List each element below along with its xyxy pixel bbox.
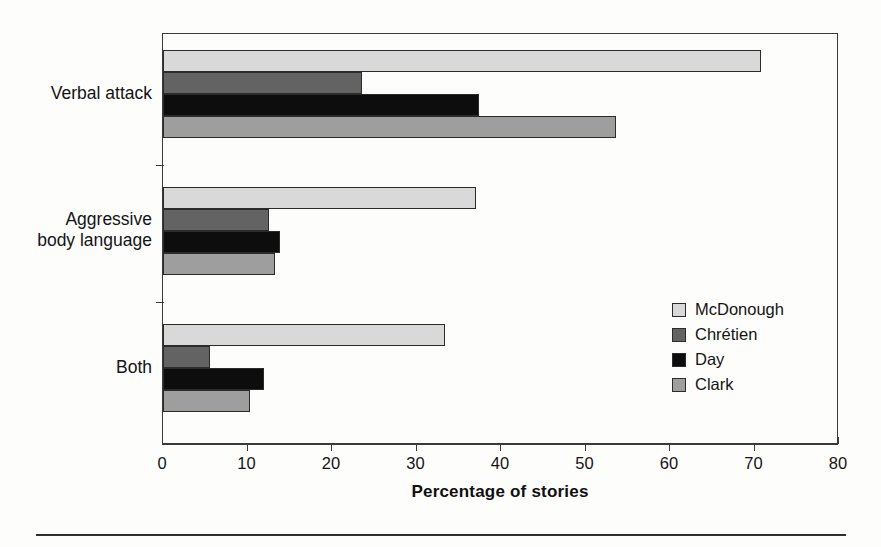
legend-swatch-icon — [672, 328, 686, 342]
legend: McDonoughChrétienDayClark — [672, 297, 832, 397]
bar — [163, 116, 616, 138]
x-axis-title: Percentage of stories — [162, 482, 838, 502]
bar — [163, 390, 250, 412]
x-axis-tick — [331, 444, 332, 451]
x-axis-tick — [416, 444, 417, 451]
x-axis-tick-label: 30 — [406, 454, 424, 473]
x-axis-tick — [162, 437, 163, 444]
bottom-divider-rule — [36, 534, 846, 536]
legend-item: McDonough — [672, 297, 832, 322]
legend-item-label: McDonough — [695, 300, 784, 319]
legend-swatch-icon — [672, 378, 686, 392]
x-axis-tick — [247, 444, 248, 451]
legend-item-label: Clark — [695, 375, 734, 394]
legend-item-label: Day — [695, 350, 724, 369]
x-axis-tick — [585, 444, 586, 451]
bar-chart-figure: Verbal attackAggressive body languageBot… — [0, 0, 881, 547]
x-axis-tick — [669, 444, 670, 451]
y-axis-tick — [156, 302, 164, 303]
x-axis-tick-label: 20 — [322, 454, 340, 473]
bar — [163, 253, 275, 275]
legend-swatch-icon — [672, 353, 686, 367]
x-axis-tick-label: 0 — [157, 454, 166, 473]
x-axis-tick-label: 80 — [829, 454, 847, 473]
bar — [163, 94, 479, 116]
x-axis: 01020304050607080 — [162, 444, 838, 445]
legend-item: Clark — [672, 372, 832, 397]
legend-item: Chrétien — [672, 322, 832, 347]
x-axis-tick-label: 60 — [660, 454, 678, 473]
y-axis-category-label: Both — [2, 357, 152, 378]
y-axis-category-label: Verbal attack — [2, 83, 152, 104]
x-axis-tick-label: 40 — [491, 454, 509, 473]
x-axis-tick — [838, 437, 839, 444]
y-axis-category-label: Aggressive body language — [2, 209, 152, 251]
x-axis-tick — [754, 444, 755, 451]
x-axis-tick — [500, 444, 501, 451]
legend-swatch-icon — [672, 303, 686, 317]
bar — [163, 368, 264, 390]
legend-item: Day — [672, 347, 832, 372]
legend-item-label: Chrétien — [695, 325, 757, 344]
y-axis-category-labels: Verbal attackAggressive body languageBot… — [0, 33, 152, 444]
x-axis-tick-label: 50 — [575, 454, 593, 473]
x-axis-tick-label: 10 — [237, 454, 255, 473]
bar — [163, 50, 761, 72]
x-axis-tick-label: 70 — [744, 454, 762, 473]
bar — [163, 346, 210, 368]
bar — [163, 231, 280, 253]
bar — [163, 187, 476, 209]
bar — [163, 324, 445, 346]
bar — [163, 209, 269, 231]
y-axis-tick — [156, 165, 164, 166]
bar — [163, 72, 362, 94]
